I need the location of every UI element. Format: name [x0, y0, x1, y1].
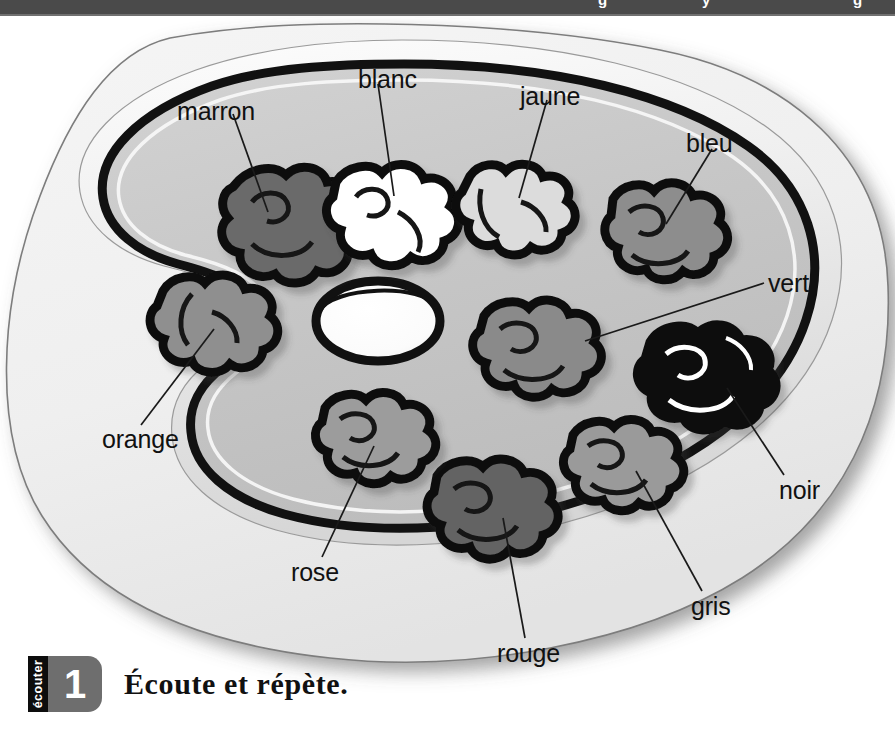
paint-blob-jaune — [456, 164, 575, 255]
paint-blob-vert — [473, 300, 602, 397]
label-marron: marron — [177, 97, 255, 126]
paint-blob-noir — [637, 325, 776, 430]
paint-blob-gris — [563, 420, 683, 511]
top-band-clipped-text: g y g — [0, 0, 895, 14]
clipped-glyph-1: g — [598, 0, 607, 8]
exercise-number-badge: 1 — [48, 656, 102, 712]
label-orange: orange — [102, 425, 179, 454]
exercise-number: 1 — [64, 662, 86, 707]
paint-blob-rose — [315, 393, 435, 484]
label-gris: gris — [691, 592, 730, 621]
textbook-page: g y g — [0, 0, 895, 740]
label-rose: rose — [291, 558, 339, 587]
ecouter-skill-label: écouter — [31, 660, 45, 709]
exercise-instruction: Écoute et répète. — [124, 667, 348, 701]
ecouter-skill-tab: écouter — [28, 656, 48, 712]
label-blanc: blanc — [358, 65, 417, 94]
label-rouge: rouge — [497, 639, 560, 668]
label-noir: noir — [779, 476, 820, 505]
label-bleu: bleu — [686, 129, 732, 158]
paint-blob-orange — [150, 275, 278, 372]
paint-blob-rouge — [427, 459, 558, 559]
page-top-band: g y g — [0, 0, 895, 16]
palette-thumb-hole — [316, 281, 440, 361]
clipped-glyph-3: g — [853, 0, 862, 8]
palette-illustration: marron blanc jaune bleu vert noir gris r… — [0, 16, 895, 740]
label-jaune: jaune — [520, 82, 580, 111]
exercise-header: écouter 1 Écoute et répète. — [28, 655, 348, 713]
paint-blob-bleu — [605, 183, 728, 280]
label-vert: vert — [768, 269, 809, 298]
clipped-glyph-2: y — [702, 0, 710, 8]
